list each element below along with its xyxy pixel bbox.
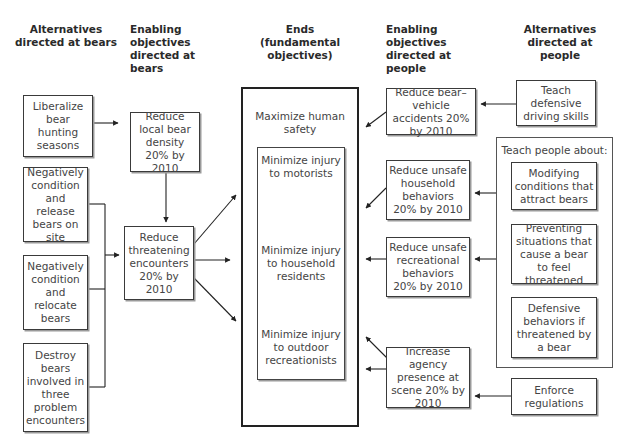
obj-label: Reduce unsafe recreational behaviors 20%… <box>389 241 467 293</box>
end-outdoor-recreationists: Minimize injury to outdoor recreationist… <box>258 328 344 367</box>
header-alternatives-bears: Alternatives directed at bears <box>10 23 122 49</box>
alt-enforce-regulations: Enforce regulations <box>511 378 597 415</box>
alt-label: Defensive behaviors if threatened by a b… <box>514 302 594 354</box>
alt-label: Destroy bears involved in three problem … <box>26 349 85 427</box>
alt-preventing-situations: Preventing situations that cause a bear … <box>511 224 597 284</box>
alt-defensive-behaviors: Defensive behaviors if threatened by a b… <box>511 297 597 358</box>
header-alternatives-people: Alternatives directed at people <box>510 23 610 62</box>
obj-reduce-bear-density: Reduce local bear density 20% by 2010 <box>130 112 200 172</box>
end-household-residents: Minimize injury to household residents <box>258 244 344 283</box>
teach-people-title: Teach people about: <box>498 144 611 157</box>
obj-increase-agency-presence: Increase agency presence at scene 20% by… <box>386 347 470 408</box>
alt-label: Liberalize bear hunting seasons <box>26 100 90 152</box>
end-motorists: Minimize injury to motorists <box>258 154 344 180</box>
header-enabling-people: Enabling objectives directed at people <box>386 23 490 75</box>
alt-modifying-conditions: Modifying conditions that attract bears <box>511 162 597 210</box>
obj-label: Reduce local bear density 20% by 2010 <box>133 110 197 175</box>
obj-reduce-threatening-encounters: Reduce threatening encounters 20% by 201… <box>124 226 194 300</box>
alt-label: Teach defensive driving skills <box>519 84 593 123</box>
obj-label: Reduce threatening encounters 20% by 201… <box>127 231 191 296</box>
alt-label: Enforce regulations <box>514 384 594 410</box>
obj-reduce-recreational-behaviors: Reduce unsafe recreational behaviors 20%… <box>386 237 470 297</box>
obj-reduce-vehicle-accidents: Reduce bear–vehicle accidents 20% by 201… <box>386 88 476 135</box>
alt-label: Negatively condition and release bears o… <box>26 166 85 244</box>
obj-reduce-household-behaviors: Reduce unsafe household behaviors 20% by… <box>386 160 470 220</box>
alt-label: Negatively condition and relocate bears <box>26 260 85 325</box>
header-ends: Ends (fundamental objectives) <box>250 23 350 62</box>
header-enabling-bears: Enabling objectives directed at bears <box>130 23 230 75</box>
obj-label: Increase agency presence at scene 20% by… <box>389 345 467 410</box>
alt-label: Modifying conditions that attract bears <box>514 167 594 206</box>
ends-subobjectives: Minimize injury to motorists Minimize in… <box>257 147 345 380</box>
obj-label: Reduce unsafe household behaviors 20% by… <box>389 164 467 216</box>
alt-teach-defensive-driving: Teach defensive driving skills <box>516 80 596 126</box>
alt-liberalize-hunting: Liberalize bear hunting seasons <box>23 95 93 157</box>
obj-label: Reduce bear–vehicle accidents 20% by 201… <box>389 86 473 138</box>
alt-condition-relocate: Negatively condition and relocate bears <box>23 255 88 330</box>
alt-destroy-bears: Destroy bears involved in three problem … <box>23 343 88 432</box>
alt-condition-release: Negatively condition and release bears o… <box>23 167 88 242</box>
ends-title: Maximize human safety <box>245 110 355 136</box>
alt-label: Preventing situations that cause a bear … <box>514 222 594 287</box>
